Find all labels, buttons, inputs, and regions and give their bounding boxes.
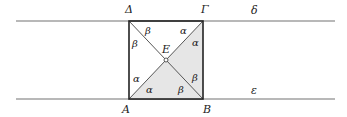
angle-bottom-right-b: β: [177, 84, 184, 95]
angle-bottom-left-b: α: [146, 84, 153, 95]
vertex-label-b: B: [202, 103, 211, 116]
angle-top-right-b: α: [192, 37, 199, 48]
vertex-label-delta: Δ: [124, 3, 133, 16]
vertex-label-gamma: Γ: [200, 3, 209, 16]
angle-bottom-left-a: α: [133, 73, 140, 84]
line-label-epsilon: ε: [251, 84, 257, 97]
vertex-label-a: A: [121, 103, 130, 116]
geometry-figure: Δ Γ A B E δ ε β β α α α α β β: [0, 0, 347, 117]
vertex-label-e: E: [161, 43, 170, 56]
line-label-delta: δ: [251, 4, 258, 17]
angle-bottom-right-a: β: [191, 72, 198, 83]
angle-top-left-b: β: [131, 38, 138, 49]
angle-top-right-a: α: [180, 25, 187, 36]
angle-top-left-a: β: [144, 25, 151, 36]
point-e: [164, 58, 168, 62]
